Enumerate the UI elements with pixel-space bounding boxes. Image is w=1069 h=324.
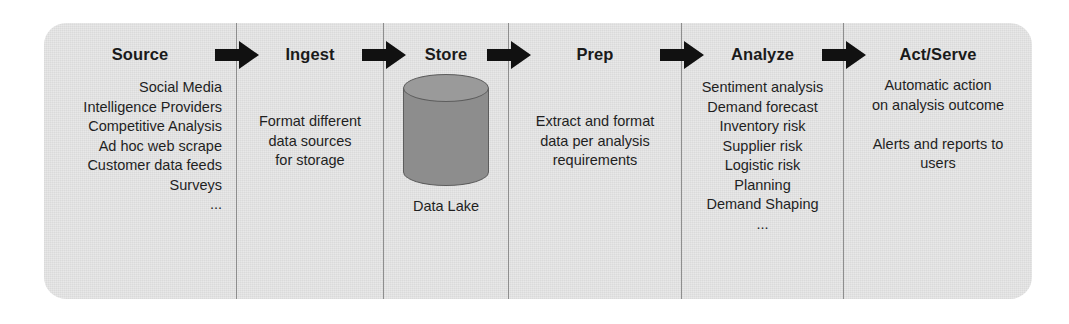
database-cylinder-icon	[403, 74, 489, 186]
source-line-1: Social Media	[50, 78, 222, 98]
arrow-source-to-ingest-icon	[215, 40, 259, 70]
analyze-line-7: Demand Shaping	[688, 195, 837, 215]
arrow-ingest-to-store-icon	[362, 40, 406, 70]
pipeline-diagram: Source Social Media Intelligence Provide…	[0, 0, 1069, 324]
stage-prep[interactable]: Prep Extract and format data per analysi…	[509, 23, 681, 299]
prep-line-3: requirements	[515, 151, 675, 171]
source-line-6: Surveys	[50, 176, 222, 196]
cylinder-top-ellipse	[403, 74, 489, 102]
analyze-line-4: Supplier risk	[688, 137, 837, 157]
stage-body-ingest: Format different data sources for storag…	[237, 112, 383, 171]
source-line-ellipsis: ...	[50, 195, 222, 215]
stage-act-serve[interactable]: Act/Serve Automatic action on analysis o…	[844, 23, 1032, 299]
analyze-line-3: Inventory risk	[688, 117, 837, 137]
prep-line-2: data per analysis	[515, 132, 675, 152]
analyze-line-5: Logistic risk	[688, 156, 837, 176]
stage-title-store: Store	[425, 45, 468, 64]
ingest-line-2: data sources	[243, 132, 377, 152]
source-line-5: Customer data feeds	[50, 156, 222, 176]
prep-line-1: Extract and format	[515, 112, 675, 132]
act-serve-line-spacer	[850, 115, 1026, 135]
source-line-2: Intelligence Providers	[50, 98, 222, 118]
stage-body-prep: Extract and format data per analysis req…	[509, 112, 681, 171]
stage-title-source: Source	[112, 45, 169, 64]
source-line-3: Competitive Analysis	[50, 117, 222, 137]
stage-title-act-serve: Act/Serve	[899, 45, 976, 64]
act-serve-line-2: on analysis outcome	[850, 96, 1026, 116]
arrow-store-to-prep-icon	[487, 40, 531, 70]
act-serve-line-4: users	[850, 154, 1026, 174]
cylinder-body	[403, 88, 489, 186]
stage-body-analyze: Sentiment analysis Demand forecast Inven…	[682, 78, 843, 234]
act-serve-line-1: Automatic action	[850, 76, 1026, 96]
analyze-line-2: Demand forecast	[688, 98, 837, 118]
data-lake-group: Data Lake	[403, 74, 489, 214]
stage-analyze[interactable]: Analyze Sentiment analysis Demand foreca…	[682, 23, 843, 299]
stage-body-source: Social Media Intelligence Providers Comp…	[44, 78, 236, 215]
source-line-4: Ad hoc web scrape	[50, 137, 222, 157]
data-lake-label: Data Lake	[413, 198, 479, 214]
analyze-line-1: Sentiment analysis	[688, 78, 837, 98]
arrow-analyze-to-act-icon	[822, 40, 866, 70]
act-serve-line-3: Alerts and reports to	[850, 135, 1026, 155]
ingest-line-3: for storage	[243, 151, 377, 171]
stage-source[interactable]: Source Social Media Intelligence Provide…	[44, 23, 236, 299]
stage-title-prep: Prep	[576, 45, 613, 64]
stage-title-analyze: Analyze	[731, 45, 794, 64]
arrow-prep-to-analyze-icon	[660, 40, 704, 70]
stage-title-ingest: Ingest	[285, 45, 334, 64]
analyze-line-ellipsis: ...	[688, 215, 837, 235]
ingest-line-1: Format different	[243, 112, 377, 132]
analyze-line-6: Planning	[688, 176, 837, 196]
stage-body-act-serve: Automatic action on analysis outcome Ale…	[844, 76, 1032, 174]
